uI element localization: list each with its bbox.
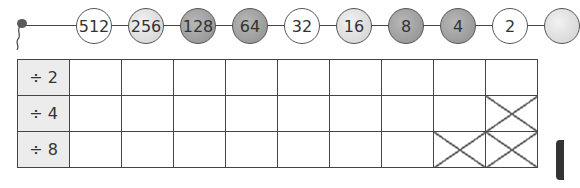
bead: 256 [128,8,164,44]
bead: 32 [284,8,320,44]
string-tail-icon [14,26,24,50]
bead: 64 [232,8,268,44]
bead-value: 16 [344,17,364,36]
answer-cell[interactable] [70,132,122,168]
row-label: ÷ 2 [18,60,70,96]
bead: 2 [492,8,528,44]
bead-value: 512 [79,17,110,36]
answer-cell[interactable] [174,60,226,96]
answer-cell[interactable] [434,96,486,132]
bead-value: 2 [505,17,515,36]
bead: 16 [336,8,372,44]
row-label: ÷ 8 [18,132,70,168]
division-table: ÷ 2÷ 4÷ 8 [17,59,538,168]
answer-cell[interactable] [382,96,434,132]
bead: 4 [440,8,476,44]
bead-value: 128 [183,17,214,36]
answer-cell[interactable] [226,96,278,132]
bead-partial [544,8,580,44]
answer-cell[interactable] [434,60,486,96]
answer-cell[interactable] [70,96,122,132]
table-row: ÷ 4 [18,96,538,132]
answer-cell[interactable] [278,132,330,168]
answer-cell[interactable] [122,60,174,96]
answer-cell[interactable] [382,132,434,168]
bead-value: 64 [240,17,260,36]
bead: 512 [76,8,112,44]
bead-value: 32 [292,17,312,36]
bead: 128 [180,8,216,44]
answer-cell[interactable] [174,132,226,168]
answer-cell[interactable] [382,60,434,96]
answer-cell[interactable] [226,60,278,96]
answer-cell[interactable] [330,96,382,132]
table-row: ÷ 8 [18,132,538,168]
answer-cell[interactable] [70,60,122,96]
bead: 8 [388,8,424,44]
crossed-cell [434,132,486,168]
table-row: ÷ 2 [18,60,538,96]
bead-value: 8 [401,17,411,36]
answer-cell[interactable] [486,60,538,96]
answer-cell[interactable] [122,132,174,168]
decorative-figure [556,140,564,180]
row-label: ÷ 4 [18,96,70,132]
answer-cell[interactable] [226,132,278,168]
answer-cell[interactable] [278,96,330,132]
answer-cell[interactable] [174,96,226,132]
crossed-cell [486,132,538,168]
answer-cell[interactable] [330,60,382,96]
bead-value: 256 [131,17,162,36]
bead-value: 4 [453,17,463,36]
crossed-cell [486,96,538,132]
answer-cell[interactable] [122,96,174,132]
answer-cell[interactable] [330,132,382,168]
answer-cell[interactable] [278,60,330,96]
